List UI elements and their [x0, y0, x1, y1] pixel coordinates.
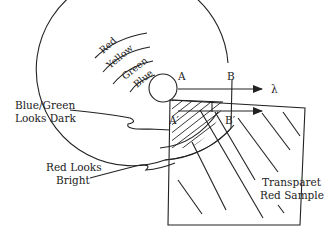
- label-a: A: [177, 70, 186, 82]
- hub-circle: [149, 74, 177, 102]
- label-a-prime: A′: [168, 114, 180, 126]
- sample-label-line1: Transparet: [262, 176, 322, 188]
- color-disk-diagram: Red Yellow Green Blue: [0, 0, 326, 236]
- callout-blue-green-line2: Looks Dark: [15, 112, 76, 124]
- sample-hatch-lines: [178, 110, 300, 218]
- lambda-symbol: λ: [271, 83, 278, 95]
- callout-red-line2: Bright: [56, 174, 91, 186]
- label-b-prime: B′: [225, 114, 236, 126]
- sample-label-line2: Red Sample: [260, 189, 324, 201]
- callout-red-line1: Red Looks: [46, 161, 102, 173]
- callout-blue-green-leader: [70, 110, 170, 130]
- label-b: B: [227, 70, 235, 82]
- callout-blue-green-line1: Blue/Green: [15, 99, 75, 111]
- red-sample-outline: [168, 100, 305, 225]
